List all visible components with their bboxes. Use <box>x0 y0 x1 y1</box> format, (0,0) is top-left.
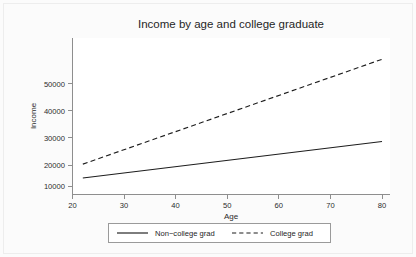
legend-label-non-college-grad: Non−college grad <box>155 229 215 238</box>
legend-label-college-grad: College grad <box>270 229 313 238</box>
y-axis-ticks <box>68 84 73 187</box>
plot-area-background <box>72 38 390 194</box>
y-axis-title: Income <box>29 102 38 129</box>
x-tick-label: 30 <box>120 201 128 210</box>
chart-figure: Income by age and college graduate 10000… <box>0 0 416 257</box>
y-tick-label: 30000 <box>44 134 65 143</box>
x-tick-label: 50 <box>223 201 231 210</box>
x-tick-label: 60 <box>275 201 283 210</box>
chart-legend: Non−college grad College grad <box>109 224 331 243</box>
income-by-age-line-chart: Income by age and college graduate 10000… <box>0 0 416 257</box>
x-tick-label: 40 <box>171 201 179 210</box>
y-axis-tick-labels: 10000 20000 30000 40000 50000 <box>44 80 65 192</box>
x-tick-label: 80 <box>378 201 386 210</box>
y-tick-label: 20000 <box>44 161 65 170</box>
y-tick-label: 40000 <box>44 107 65 116</box>
x-tick-label: 70 <box>326 201 334 210</box>
x-tick-label: 20 <box>68 201 76 210</box>
x-axis-tick-labels: 20 30 40 50 60 70 80 <box>68 201 386 210</box>
x-axis-title: Age <box>224 212 239 221</box>
y-tick-label: 10000 <box>44 182 65 191</box>
x-axis-ticks <box>73 195 383 200</box>
y-tick-label: 50000 <box>44 80 65 89</box>
chart-title: Income by age and college graduate <box>138 18 324 30</box>
